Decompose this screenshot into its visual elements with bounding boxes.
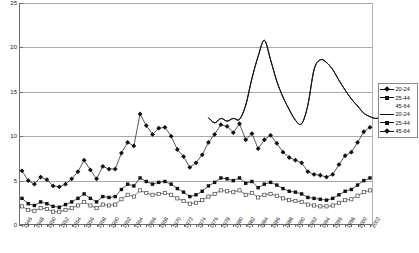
data-point-marker bbox=[182, 190, 185, 193]
data-point-marker bbox=[88, 168, 93, 173]
data-point-marker bbox=[288, 190, 291, 193]
legend-label: 20-24 bbox=[394, 86, 410, 92]
y-axis-tick-label: 20 bbox=[10, 44, 17, 50]
data-point-marker bbox=[163, 180, 166, 183]
data-point-marker bbox=[107, 167, 112, 172]
data-point-marker bbox=[343, 153, 348, 158]
data-point-marker bbox=[300, 200, 303, 203]
data-point-marker bbox=[207, 195, 210, 198]
data-point-marker bbox=[350, 198, 353, 201]
data-point-marker bbox=[119, 151, 124, 156]
data-point-marker bbox=[225, 190, 228, 193]
legend-label: 45-64 bbox=[394, 103, 410, 109]
data-point-marker bbox=[89, 197, 92, 200]
data-point-marker bbox=[368, 189, 371, 192]
data-point-marker bbox=[256, 146, 261, 151]
series-3-20-24 bbox=[208, 40, 394, 124]
data-point-marker bbox=[281, 197, 284, 200]
data-point-marker bbox=[145, 191, 148, 194]
data-point-marker bbox=[361, 129, 366, 134]
data-point-marker bbox=[362, 179, 365, 182]
legend-item: 25-44 bbox=[379, 119, 417, 127]
data-point-marker bbox=[58, 206, 61, 209]
y-axis-labels: 0510152025 bbox=[0, 0, 17, 228]
data-point-marker bbox=[275, 194, 278, 197]
data-point-marker bbox=[362, 191, 365, 194]
data-point-marker bbox=[95, 200, 98, 203]
data-point-marker bbox=[237, 121, 242, 126]
data-point-marker bbox=[126, 193, 129, 196]
data-point-marker bbox=[194, 201, 197, 204]
data-point-marker bbox=[343, 190, 346, 193]
data-point-marker bbox=[213, 192, 216, 195]
legend-label: 25-44 bbox=[394, 120, 410, 126]
data-point-marker bbox=[194, 193, 197, 196]
data-point-marker bbox=[337, 162, 342, 167]
data-point-marker bbox=[100, 164, 105, 169]
legend-key-diamond-icon bbox=[380, 127, 394, 135]
data-point-marker bbox=[132, 184, 135, 187]
data-point-marker bbox=[20, 168, 25, 173]
data-point-marker bbox=[95, 207, 98, 210]
data-point-marker bbox=[89, 204, 92, 207]
data-point-marker bbox=[70, 200, 73, 203]
data-point-marker bbox=[82, 192, 85, 195]
legend-label: 20-24 bbox=[394, 111, 410, 117]
data-point-marker bbox=[225, 177, 228, 180]
data-point-marker bbox=[163, 125, 168, 130]
series-0-20-24 bbox=[22, 114, 370, 187]
data-point-marker bbox=[325, 198, 328, 201]
data-point-marker bbox=[232, 179, 235, 182]
data-point-marker bbox=[27, 208, 30, 211]
data-point-marker bbox=[83, 200, 86, 203]
data-point-marker bbox=[337, 193, 340, 196]
data-point-marker bbox=[64, 208, 67, 211]
data-point-marker bbox=[169, 182, 172, 185]
data-point-marker bbox=[275, 183, 278, 186]
data-point-marker bbox=[182, 199, 185, 202]
data-point-marker bbox=[20, 205, 23, 208]
data-point-marker bbox=[344, 199, 347, 202]
data-point-marker bbox=[244, 182, 247, 185]
data-point-marker bbox=[138, 112, 143, 117]
data-point-marker bbox=[294, 190, 297, 193]
x-axis-tick-labels: 1946194819501952195419561958196019621964… bbox=[19, 226, 379, 253]
data-point-marker bbox=[269, 181, 272, 184]
data-point-marker bbox=[107, 204, 110, 207]
data-point-marker bbox=[39, 207, 42, 210]
data-point-marker bbox=[57, 184, 62, 189]
data-point-marker bbox=[305, 169, 310, 174]
series-4-25-44 bbox=[208, 40, 394, 124]
data-point-marker bbox=[337, 201, 340, 204]
data-point-marker bbox=[39, 200, 42, 203]
data-point-marker bbox=[331, 204, 334, 207]
data-point-marker bbox=[238, 176, 241, 179]
chart-root: 0510152025 19461948195019521954195619581… bbox=[0, 0, 419, 253]
y-axis-tick-label: 5 bbox=[14, 178, 17, 184]
data-point-marker bbox=[51, 205, 54, 208]
data-point-marker bbox=[120, 198, 123, 201]
data-point-marker bbox=[219, 189, 222, 192]
data-point-marker bbox=[114, 203, 117, 206]
data-point-marker bbox=[144, 123, 149, 128]
data-point-marker bbox=[94, 176, 99, 181]
data-point-marker bbox=[294, 199, 297, 202]
legend: 20-2425-4445-6420-2425-4445-64 bbox=[378, 83, 418, 138]
data-point-marker bbox=[250, 191, 253, 194]
data-point-marker bbox=[82, 158, 87, 163]
data-point-marker bbox=[58, 210, 61, 213]
data-point-marker bbox=[45, 202, 48, 205]
data-point-marker bbox=[131, 144, 136, 149]
y-axis-tick-label: 10 bbox=[10, 133, 17, 139]
data-point-marker bbox=[151, 182, 154, 185]
data-point-marker bbox=[188, 195, 191, 198]
data-point-marker bbox=[163, 191, 166, 194]
legend-item: 45-64 bbox=[379, 102, 417, 110]
legend-key-none-icon bbox=[380, 102, 394, 110]
data-point-marker bbox=[157, 181, 160, 184]
data-point-marker bbox=[188, 202, 191, 205]
data-point-marker bbox=[356, 183, 359, 186]
series-5-45-64 bbox=[208, 40, 394, 124]
data-point-marker bbox=[257, 196, 260, 199]
data-point-marker bbox=[281, 187, 284, 190]
